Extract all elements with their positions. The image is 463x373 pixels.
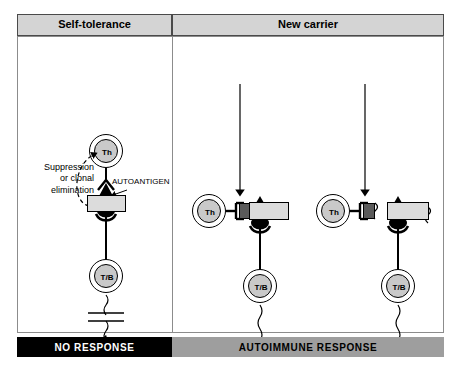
- effector-cell-intramolecular: T/B: [243, 269, 277, 303]
- outcome-autoimmune-response-label: AUTOIMMUNE RESPONSE: [239, 342, 377, 353]
- helper-cell-membrane-associated: Th: [316, 194, 350, 228]
- effector-cell-intramolecular-label: T/B: [244, 270, 278, 304]
- effector-cell-self-tolerance-label: T/B: [90, 260, 124, 294]
- effector-cell-self-tolerance: T/B: [89, 259, 123, 293]
- helper-cell-self-tolerance-label: Th: [90, 135, 124, 169]
- new-carrier-membrane-associated: [363, 203, 375, 219]
- immune-tolerance-figure: Self-tolerance New carrier ABNORMAL SELF…: [17, 14, 444, 357]
- helper-cell-membrane-associated-label: Th: [317, 195, 351, 229]
- outcome-no-response-label: NO RESPONSE: [55, 342, 135, 353]
- helper-cell-intramolecular: Th: [192, 194, 226, 228]
- outcome-autoimmune-response: AUTOIMMUNE RESPONSE: [172, 337, 444, 357]
- outcome-no-response: NO RESPONSE: [17, 337, 172, 357]
- membrane-associated-graphics: [17, 14, 444, 357]
- effector-cell-membrane-associated-label: T/B: [382, 270, 416, 304]
- helper-cell-intramolecular-label: Th: [193, 195, 227, 229]
- helper-cell-self-tolerance: Th: [89, 134, 123, 168]
- effector-cell-membrane-associated: T/B: [381, 269, 415, 303]
- mhc-molecule-membrane-associated: [387, 202, 429, 220]
